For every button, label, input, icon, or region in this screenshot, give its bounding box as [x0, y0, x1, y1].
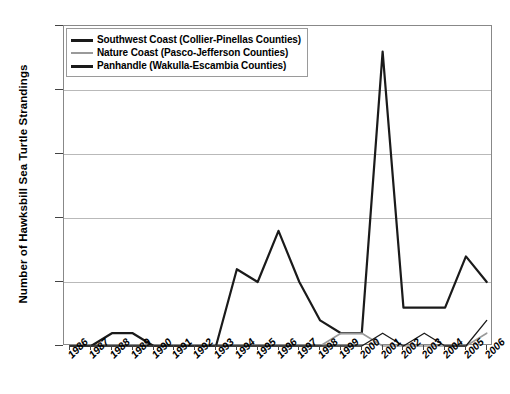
y-tick-mark-15 [55, 153, 63, 154]
y-tick-mark-5 [55, 281, 63, 282]
y-tick-mark-25 [55, 25, 63, 26]
legend-label-panhandle: Panhandle (Wakulla-Escambia Counties) [97, 60, 286, 71]
chart-legend: Southwest Coast (Collier-Pinellas Counti… [66, 28, 308, 77]
legend-item-southwest-coast: Southwest Coast (Collier-Pinellas Counti… [71, 33, 301, 46]
legend-label-nature-coast: Nature Coast (Pasco-Jefferson Counties) [97, 47, 288, 58]
line-chart: Number of Hawksbill Sea Turtle Stranding… [0, 0, 510, 394]
series-line-nature [70, 333, 487, 346]
legend-label-southwest-coast: Southwest Coast (Collier-Pinellas Counti… [97, 34, 301, 45]
y-tick-mark-0 [55, 345, 63, 346]
y-axis-title: Number of Hawksbill Sea Turtle Stranding… [17, 24, 29, 344]
series-line-southwest [70, 52, 487, 346]
legend-item-nature-coast: Nature Coast (Pasco-Jefferson Counties) [71, 46, 301, 59]
legend-item-panhandle: Panhandle (Wakulla-Escambia Counties) [71, 59, 301, 72]
y-tick-mark-10 [55, 217, 63, 218]
y-tick-mark-20 [55, 89, 63, 90]
